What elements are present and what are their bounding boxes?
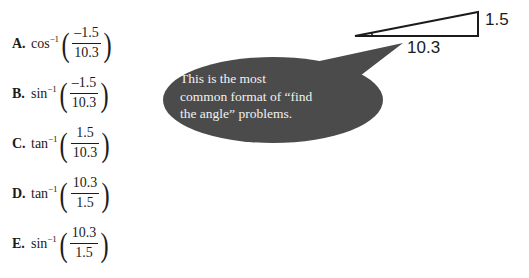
bubble-text-line-1: This is the most bbox=[180, 70, 360, 88]
fraction-bar bbox=[72, 43, 101, 44]
choice-expression: tan−1 bbox=[31, 136, 58, 152]
answer-choice-e[interactable]: E. sin−1 ( 10.3 1.5 ) bbox=[12, 222, 162, 266]
inverse-exponent: −1 bbox=[48, 134, 57, 144]
answer-choice-b[interactable]: B. sin−1 ( –1.5 10.3 ) bbox=[12, 72, 162, 116]
fraction-numerator: –1.5 bbox=[72, 25, 101, 42]
fraction-numerator: 10.3 bbox=[70, 225, 99, 242]
fraction-numerator: 1.5 bbox=[74, 125, 96, 142]
answer-choice-c[interactable]: C. tan−1 ( 1.5 10.3 ) bbox=[12, 122, 162, 166]
choice-letter: E. bbox=[12, 236, 31, 252]
fraction: 10.3 1.5 bbox=[70, 225, 99, 261]
trig-function-name: tan bbox=[31, 136, 48, 151]
answer-choice-d[interactable]: D. tan−1 ( 10.3 1.5 ) bbox=[12, 172, 162, 216]
choice-letter: C. bbox=[12, 136, 31, 152]
choice-expression: sin−1 bbox=[31, 86, 58, 102]
fraction-bar bbox=[70, 243, 99, 244]
inverse-exponent: −1 bbox=[47, 234, 56, 244]
fraction-numerator: 10.3 bbox=[71, 175, 100, 192]
choice-expression: cos−1 bbox=[31, 36, 60, 52]
fraction-denominator: 10.3 bbox=[72, 45, 101, 62]
speech-bubble-callout: This is the most common format of “find … bbox=[163, 40, 403, 144]
fraction-bar bbox=[70, 93, 99, 94]
choice-letter: B. bbox=[12, 86, 31, 102]
fraction-numerator: –1.5 bbox=[70, 75, 99, 92]
inverse-exponent: −1 bbox=[50, 34, 59, 44]
triangle-vertical-label: 1.5 bbox=[485, 10, 509, 30]
answer-choice-a[interactable]: A. cos−1 ( –1.5 10.3 ) bbox=[12, 22, 162, 66]
trig-function-name: cos bbox=[31, 36, 50, 51]
trig-function-name: tan bbox=[31, 186, 48, 201]
fraction: 10.3 1.5 bbox=[71, 175, 100, 211]
fraction-bar bbox=[71, 193, 100, 194]
bubble-text-line-2: common format of “find bbox=[180, 88, 360, 106]
fraction-denominator: 1.5 bbox=[73, 245, 95, 262]
fraction-denominator: 10.3 bbox=[71, 145, 100, 162]
bubble-text-line-3: the angle” problems. bbox=[180, 105, 360, 123]
triangle-shape bbox=[355, 12, 478, 36]
fraction-denominator: 1.5 bbox=[74, 195, 96, 212]
trig-function-name: sin bbox=[31, 236, 47, 251]
choice-letter: D. bbox=[12, 186, 31, 202]
choice-expression: sin−1 bbox=[31, 236, 58, 252]
fraction: –1.5 10.3 bbox=[72, 25, 101, 61]
bubble-text: This is the most common format of “find … bbox=[180, 70, 360, 123]
fraction: 1.5 10.3 bbox=[71, 125, 100, 161]
inverse-exponent: −1 bbox=[48, 184, 57, 194]
fraction-bar bbox=[71, 143, 100, 144]
trig-function-name: sin bbox=[31, 86, 47, 101]
answer-choice-list: A. cos−1 ( –1.5 10.3 ) B. sin−1 ( –1.5 1… bbox=[12, 22, 162, 272]
triangle-horizontal-label: 10.3 bbox=[407, 38, 440, 58]
fraction: –1.5 10.3 bbox=[70, 75, 99, 111]
fraction-denominator: 10.3 bbox=[70, 95, 99, 112]
choice-letter: A. bbox=[12, 36, 31, 52]
choice-expression: tan−1 bbox=[31, 186, 58, 202]
inverse-exponent: −1 bbox=[47, 84, 56, 94]
